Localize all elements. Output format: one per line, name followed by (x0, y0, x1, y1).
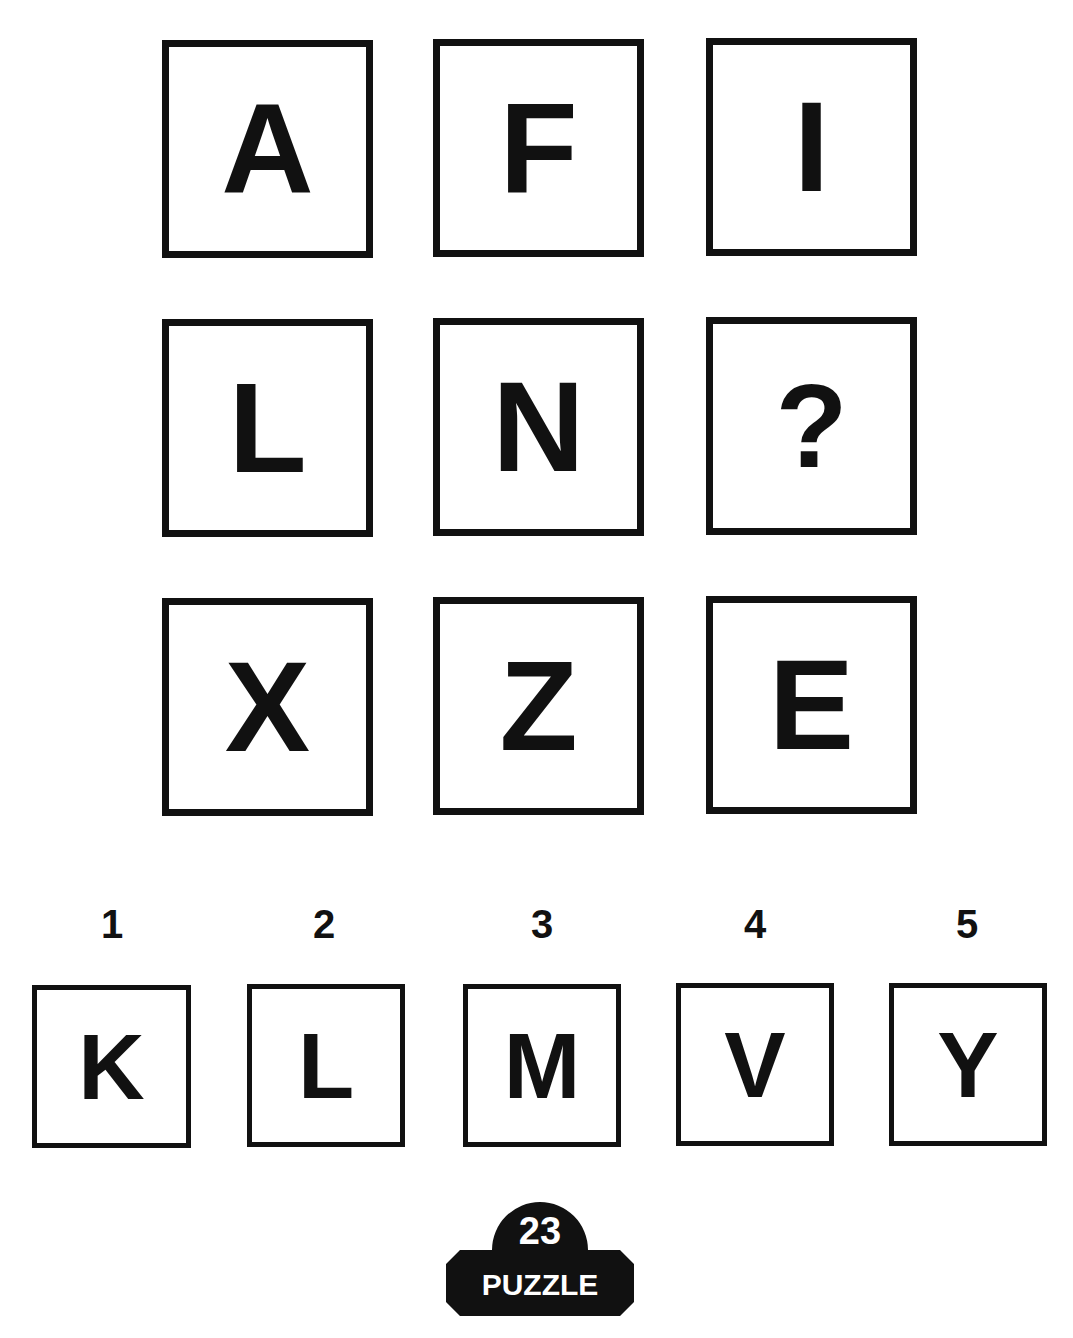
option-letter: M (504, 1020, 581, 1112)
option-number-2: 2 (294, 904, 354, 944)
grid-cell-r3c3: E (706, 596, 917, 814)
grid-letter: I (794, 83, 830, 211)
grid-letter: A (221, 85, 313, 213)
grid-letter: X (225, 643, 310, 771)
puzzle-number: 23 (442, 1212, 638, 1250)
option-number-4: 4 (725, 904, 785, 944)
option-4[interactable]: V (676, 983, 834, 1146)
option-5[interactable]: Y (889, 983, 1047, 1146)
option-2[interactable]: L (247, 984, 405, 1147)
option-letter: L (298, 1020, 354, 1112)
question-mark: ? (775, 367, 847, 485)
option-letter: V (724, 1019, 785, 1111)
grid-letter: L (228, 364, 306, 492)
grid-cell-r2c3-missing: ? (706, 317, 917, 535)
grid-cell-r1c1: A (162, 40, 373, 258)
grid-cell-r3c2: Z (433, 597, 644, 815)
option-letter: K (78, 1021, 144, 1113)
grid-letter: N (492, 363, 584, 491)
option-1[interactable]: K (32, 985, 191, 1148)
grid-cell-r2c2: N (433, 318, 644, 536)
grid-cell-r3c1: X (162, 598, 373, 816)
grid-letter: E (769, 641, 854, 769)
puzzle-number-badge: 23 PUZZLE (442, 1192, 638, 1322)
option-number-5: 5 (937, 904, 997, 944)
option-letter: Y (937, 1019, 998, 1111)
option-number-1: 1 (82, 904, 142, 944)
grid-cell-r2c1: L (162, 319, 373, 537)
option-number-3: 3 (512, 904, 572, 944)
grid-cell-r1c2: F (433, 39, 644, 257)
grid-letter: F (499, 84, 577, 212)
option-3[interactable]: M (463, 984, 621, 1147)
grid-letter: Z (499, 642, 577, 770)
grid-cell-r1c3: I (706, 38, 917, 256)
puzzle-label: PUZZLE (442, 1270, 638, 1300)
